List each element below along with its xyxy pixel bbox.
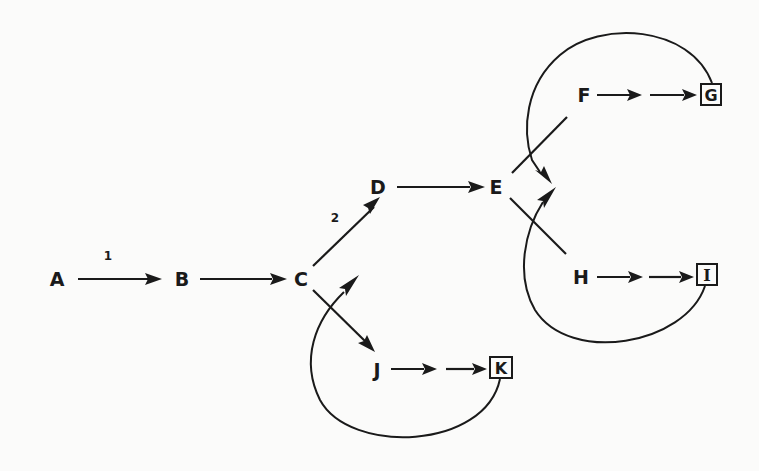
feedback-edge-k-c	[311, 275, 500, 437]
edge-label-1: 1	[104, 249, 112, 263]
node-a: A	[50, 268, 65, 290]
edge-d-e	[397, 181, 485, 193]
node-g: G	[704, 86, 717, 105]
edge-f-g	[597, 89, 697, 101]
edge-e-f	[512, 117, 567, 173]
arrowhead-icon	[422, 363, 437, 375]
terminal-node-i: I	[697, 264, 717, 285]
node-h: H	[573, 266, 589, 288]
feedback-edge-i-e	[524, 187, 705, 342]
node-j: J	[371, 359, 380, 381]
node-f: F	[578, 84, 591, 106]
edge-a-b	[78, 273, 162, 285]
node-c: C	[294, 268, 308, 290]
edge-h-i	[597, 271, 694, 283]
edge-j-k	[391, 363, 487, 375]
arrowhead-icon	[270, 273, 287, 285]
arrowhead-icon	[363, 197, 380, 214]
node-b: B	[175, 268, 189, 290]
terminal-node-g: G	[701, 84, 721, 105]
arrowhead-icon	[679, 271, 694, 283]
feedback-edge-g-e	[527, 33, 712, 184]
arrowhead-icon	[537, 187, 556, 208]
node-k: K	[495, 359, 508, 378]
arrowhead-icon	[628, 271, 643, 283]
arrowhead-icon	[472, 363, 487, 375]
arrowhead-icon	[682, 89, 697, 101]
edge-b-c	[200, 273, 287, 285]
node-i: I	[703, 266, 710, 285]
terminal-node-k: K	[490, 357, 512, 378]
node-e: E	[490, 176, 503, 198]
edge-label-2: 2	[331, 211, 339, 225]
arrowhead-icon	[468, 181, 485, 193]
edge-e-h	[510, 198, 566, 254]
edge-c-d	[313, 197, 380, 266]
flow-diagram: A B C D E F H J G I K 1 2	[0, 0, 759, 471]
node-d: D	[370, 176, 386, 198]
